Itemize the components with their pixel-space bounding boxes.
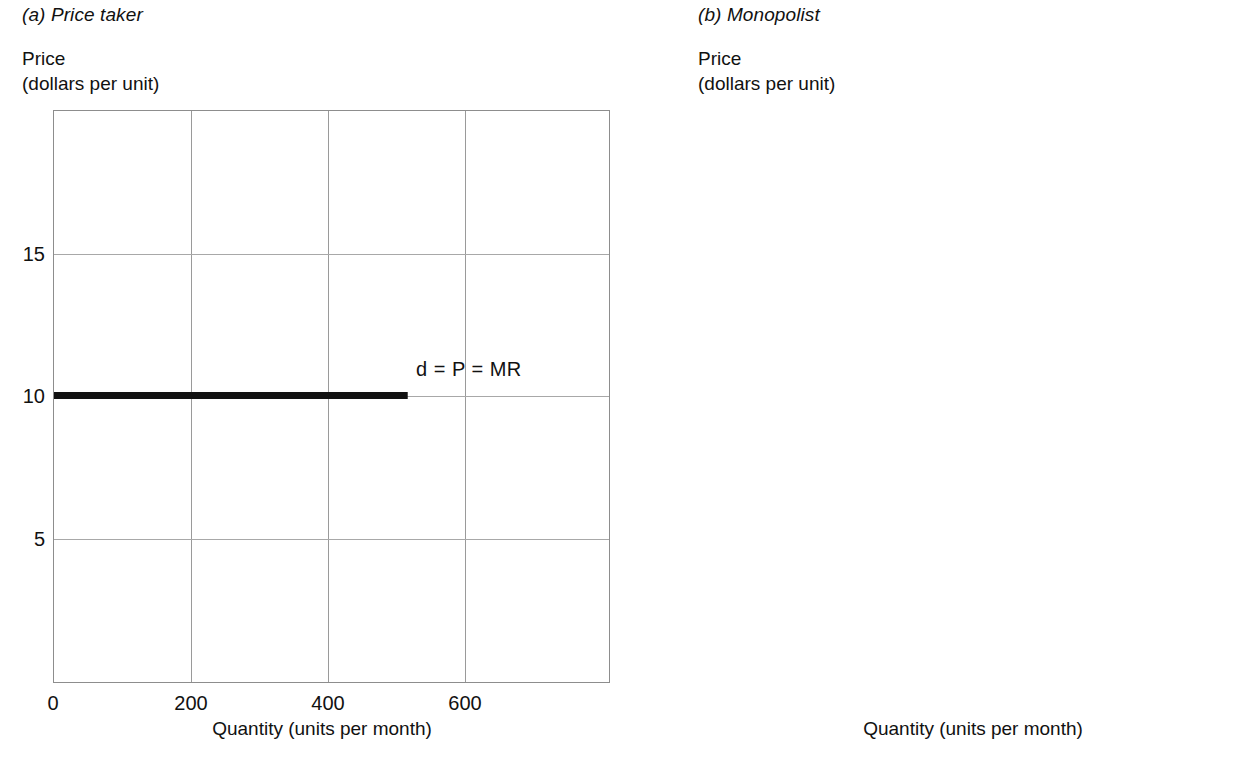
gridline-y-5 [54,539,609,540]
panel-a-y-axis-title-line1: Price [22,46,159,71]
panel-b-title: (b) Monopolist [698,4,820,26]
curve-label-d-p-mr: d = P = MR [416,358,522,381]
panel-b-y-axis-title: Price (dollars per unit) [698,46,835,96]
panel-a-title: (a) Price taker [22,4,143,26]
y-tick-label-5: 5 [34,528,45,551]
x-tick-label-400: 400 [311,692,344,715]
panel-a-x-axis-label: Quantity (units per month) [212,718,432,740]
plot-area-price-taker: 15 10 5 0 200 400 600 d = P = MR [53,110,610,683]
panel-b-x-axis-label: Quantity (units per month) [863,718,1083,740]
panel-price-taker: (a) Price taker Price (dollars per unit)… [0,0,627,774]
gridline-y-10 [54,396,609,397]
x-tick-label-200: 200 [174,692,207,715]
x-tick-label-600: 600 [448,692,481,715]
panel-a-y-axis-title-line2: (dollars per unit) [22,71,159,96]
panel-b-y-axis-title-line1: Price [698,46,835,71]
panel-monopolist: (b) Monopolist Price (dollars per unit) … [628,0,1255,774]
gridline-y-15 [54,254,609,255]
y-tick-label-15: 15 [23,243,45,266]
y-tick-label-10: 10 [23,385,45,408]
panel-a-y-axis-title: Price (dollars per unit) [22,46,159,96]
panel-b-y-axis-title-line2: (dollars per unit) [698,71,835,96]
x-tick-label-0: 0 [47,692,58,715]
